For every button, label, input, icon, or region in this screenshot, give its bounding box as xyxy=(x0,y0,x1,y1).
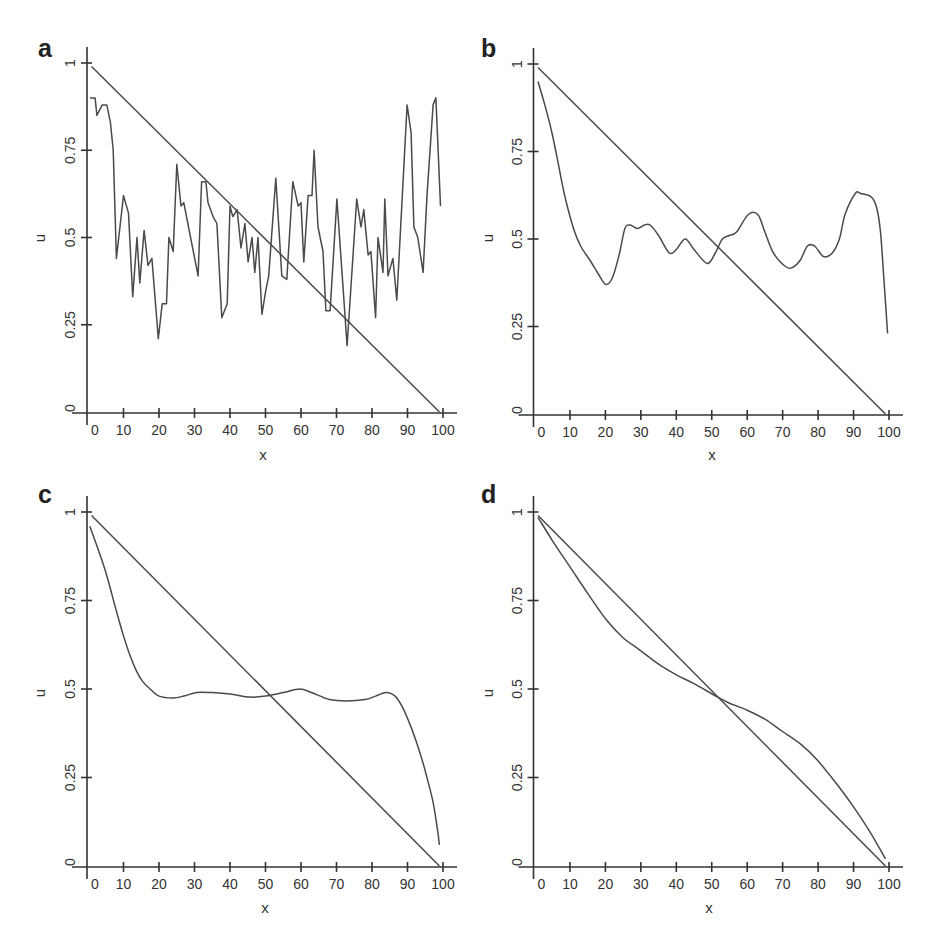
x-tick-label: 90 xyxy=(846,876,862,892)
x-tick-label: 30 xyxy=(187,876,203,892)
solution-curve xyxy=(90,98,440,346)
x-tick-label: 40 xyxy=(222,876,238,892)
x-tick-label: 80 xyxy=(364,876,380,892)
x-tick-label: 90 xyxy=(400,876,416,892)
x-tick-label: 100 xyxy=(877,424,901,440)
x-tick-label: 60 xyxy=(293,422,309,438)
axis-ticks: 010203040506070809010000.250.50.751 xyxy=(509,508,901,892)
x-tick-label: 80 xyxy=(810,876,826,892)
y-tick-label: 0.75 xyxy=(62,587,78,614)
y-tick-label: 1 xyxy=(62,59,78,67)
panel-c: c 010203040506070809010000.250.50.751 u … xyxy=(31,480,457,916)
y-tick-label: 0 xyxy=(62,404,78,412)
y-tick-label: 0.25 xyxy=(62,764,78,791)
x-tick-label: 60 xyxy=(293,876,309,892)
y-tick-label: 0 xyxy=(509,858,525,866)
x-tick-label: 100 xyxy=(431,876,455,892)
x-tick-label: 80 xyxy=(810,424,826,440)
y-tick-label: 0 xyxy=(509,406,525,414)
plot-area xyxy=(538,516,886,866)
linear-line xyxy=(538,516,885,866)
y-axis-title: u xyxy=(479,689,496,697)
plot-area xyxy=(538,68,888,415)
panel-a: a 010203040506070809010000.250.50.751 u … xyxy=(31,34,457,463)
x-tick-label: 0 xyxy=(538,424,546,440)
x-tick-label: 60 xyxy=(739,424,755,440)
x-tick-label: 0 xyxy=(91,422,99,438)
x-tick-label: 30 xyxy=(633,876,649,892)
y-tick-label: 0.25 xyxy=(509,764,525,791)
x-tick-label: 30 xyxy=(633,424,649,440)
y-axis-title: u xyxy=(31,689,48,697)
x-tick-label: 50 xyxy=(704,876,720,892)
x-tick-label: 20 xyxy=(598,424,614,440)
x-axis-title: x xyxy=(705,899,713,916)
plot-area xyxy=(90,516,440,866)
x-tick-label: 20 xyxy=(151,876,167,892)
x-tick-label: 100 xyxy=(431,422,455,438)
x-tick-label: 70 xyxy=(775,876,791,892)
x-tick-label: 90 xyxy=(400,422,416,438)
x-tick-label: 10 xyxy=(116,422,132,438)
x-tick-label: 100 xyxy=(877,876,901,892)
x-axis-title: x xyxy=(259,446,267,463)
axis-ticks: 010203040506070809010000.250.50.751 xyxy=(509,60,901,440)
y-tick-label: 0.25 xyxy=(509,313,525,340)
x-tick-label: 40 xyxy=(669,876,685,892)
x-tick-label: 10 xyxy=(562,424,578,440)
y-axis-title: u xyxy=(31,234,48,242)
x-tick-label: 40 xyxy=(669,424,685,440)
y-tick-label: 0.5 xyxy=(509,679,525,699)
x-tick-label: 70 xyxy=(329,876,345,892)
x-axis-title: x xyxy=(261,899,269,916)
panel-b: b 010203040506070809010000.250.50.751 u … xyxy=(479,34,903,463)
y-tick-label: 0 xyxy=(62,858,78,866)
x-tick-label: 10 xyxy=(562,876,578,892)
panel-d: d 010203040506070809010000.250.50.751 u … xyxy=(479,480,903,916)
x-tick-label: 50 xyxy=(258,422,274,438)
x-tick-label: 70 xyxy=(329,422,345,438)
panel-label: b xyxy=(481,34,496,62)
y-tick-label: 0.75 xyxy=(509,138,525,165)
solution-curve xyxy=(90,526,440,845)
x-tick-label: 50 xyxy=(704,424,720,440)
y-tick-label: 0.5 xyxy=(62,228,78,248)
x-tick-label: 60 xyxy=(739,876,755,892)
y-tick-label: 0.5 xyxy=(62,679,78,699)
y-axis-title: u xyxy=(479,234,496,242)
axis-ticks: 010203040506070809010000.250.50.751 xyxy=(62,508,455,892)
x-tick-label: 80 xyxy=(364,422,380,438)
linear-line xyxy=(92,516,440,866)
figure: a 010203040506070809010000.250.50.751 u … xyxy=(0,0,940,942)
x-tick-label: 20 xyxy=(151,422,167,438)
linear-line xyxy=(538,68,885,415)
x-tick-label: 30 xyxy=(187,422,203,438)
y-tick-label: 1 xyxy=(62,508,78,516)
x-tick-label: 10 xyxy=(116,876,132,892)
panel-label: c xyxy=(38,480,52,508)
y-tick-label: 0.75 xyxy=(509,587,525,614)
y-tick-label: 0.5 xyxy=(509,229,525,249)
x-axis-title: x xyxy=(708,446,716,463)
y-tick-label: 0.75 xyxy=(62,136,78,163)
x-tick-label: 20 xyxy=(598,876,614,892)
x-tick-label: 0 xyxy=(91,876,99,892)
panel-label: d xyxy=(481,480,496,508)
x-tick-label: 0 xyxy=(538,876,546,892)
y-tick-label: 1 xyxy=(509,60,525,68)
y-tick-label: 0.25 xyxy=(62,311,78,338)
x-tick-label: 40 xyxy=(222,422,238,438)
x-tick-label: 90 xyxy=(846,424,862,440)
panel-label: a xyxy=(38,34,53,62)
y-tick-label: 1 xyxy=(509,508,525,516)
plot-area xyxy=(90,66,440,412)
x-tick-label: 70 xyxy=(775,424,791,440)
x-tick-label: 50 xyxy=(258,876,274,892)
